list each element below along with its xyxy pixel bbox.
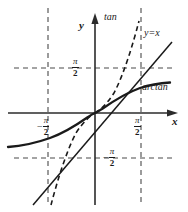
y-axis-arrow — [91, 13, 98, 24]
tick-label-y-positive-pi-over-2: π 2 — [72, 57, 79, 78]
tick-numerator-x-positive: π — [134, 116, 141, 125]
tick-label-y-negative-pi-over-2: − π 2 — [103, 147, 115, 168]
tick-denominator-y-positive: 2 — [72, 69, 79, 78]
math-figure: y x tan y=x arctan π 2 − π 2 — [0, 0, 188, 212]
curve-arctan — [8, 83, 170, 148]
y-axis-label: y — [79, 20, 84, 31]
curve-identity-y-equals-x — [33, 42, 172, 205]
tick-numerator-y-negative: π — [109, 147, 116, 156]
curve-label-arctan: arctan — [142, 82, 168, 92]
tick-denominator-y-negative: 2 — [109, 159, 116, 168]
tick-denominator-x-negative: 2 — [43, 128, 50, 137]
curve-label-tan: tan — [104, 12, 117, 22]
tick-label-x-positive-pi-over-2: π 2 — [134, 116, 141, 137]
tick-numerator-x-negative: π — [43, 116, 50, 125]
tick-denominator-x-positive: 2 — [134, 128, 141, 137]
curve-label-identity: y=x — [144, 28, 160, 38]
tick-numerator-y-positive: π — [72, 57, 79, 66]
tick-label-x-negative-pi-over-2: − π 2 — [37, 116, 49, 137]
x-axis-label: x — [172, 116, 178, 127]
